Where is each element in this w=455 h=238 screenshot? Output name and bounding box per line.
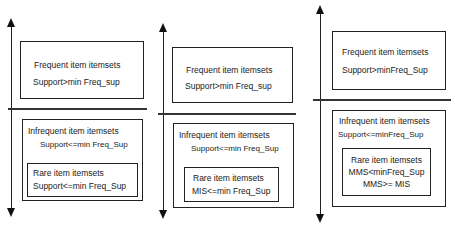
rare-title: Rare item itemsets <box>343 155 430 165</box>
infrequent-itemsets-box: Infrequent item itemsets Support<=min Fr… <box>22 119 143 201</box>
frequent-itemsets-box: Frequent item itemsets Support>min Freq_… <box>172 47 293 103</box>
infrequent-condition: Support<=min Freq_Sup <box>191 144 279 154</box>
infrequent-condition: Support<=minFreq_Sup <box>338 130 423 140</box>
rare-title: Rare item itemsets <box>33 168 104 178</box>
frequent-condition: Support>min Freq_sup <box>33 77 120 87</box>
frequent-itemsets-box: Frequent item itemsets Support>min Freq_… <box>20 41 144 99</box>
rare-itemsets-box: Rare item itemsets Support<=min Freq_Sup <box>27 163 138 197</box>
support-axis <box>320 12 321 217</box>
frequent-condition: Support>minFreq_Sup <box>342 65 428 75</box>
rare-condition: MIS<=min Freq_Sup <box>192 186 270 196</box>
support-axis <box>11 26 12 210</box>
rare-itemsets-box: Rare item itemsets MMS<minFreq_Sup MMS>=… <box>342 148 431 196</box>
frequent-title: Frequent item itemsets <box>186 65 272 75</box>
arrow-up-icon <box>316 5 324 14</box>
rare-title: Rare item itemsets <box>193 173 264 183</box>
arrow-down-icon <box>316 214 324 223</box>
rare-itemsets-box: Rare item itemsets MIS<=min Freq_Sup <box>184 167 279 202</box>
infrequent-itemsets-box: Infrequent item itemsets Support<=minFre… <box>332 110 446 207</box>
arrow-up-icon <box>7 18 15 27</box>
frequent-itemsets-box: Frequent item itemsets Support>minFreq_S… <box>332 31 446 90</box>
frequent-condition: Support>min Freq_sup <box>185 81 272 91</box>
frequent-title: Frequent item itemsets <box>34 60 120 70</box>
arrow-down-icon <box>159 210 167 219</box>
arrow-down-icon <box>7 208 15 217</box>
support-axis <box>163 30 164 212</box>
rare-condition: Support<=min Freq_Sup <box>33 181 126 191</box>
rare-condition: MMS<minFreq_Sup <box>343 167 430 177</box>
threshold-divider <box>158 113 296 115</box>
infrequent-condition: Support<=min Freq_Sup <box>40 140 128 150</box>
infrequent-title: Infrequent item itemsets <box>179 130 270 140</box>
rare-condition-2: MMS>= MIS <box>343 179 430 189</box>
infrequent-itemsets-box: Infrequent item itemsets Support<=min Fr… <box>173 123 294 208</box>
frequent-title: Frequent item itemsets <box>342 47 428 57</box>
arrow-up-icon <box>159 23 167 32</box>
infrequent-title: Infrequent item itemsets <box>339 116 430 126</box>
infrequent-title: Infrequent item itemsets <box>28 126 119 136</box>
threshold-divider <box>313 99 451 101</box>
threshold-divider <box>8 108 147 110</box>
